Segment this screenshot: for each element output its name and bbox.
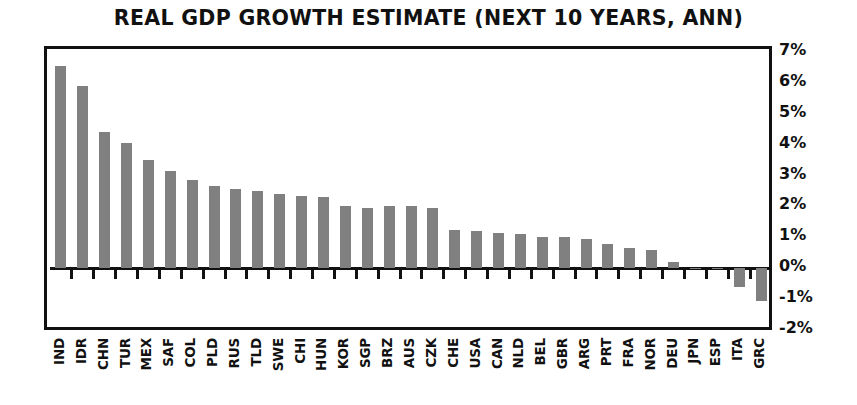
bar — [230, 189, 241, 268]
bar — [646, 250, 657, 269]
x-tick — [727, 270, 730, 279]
bar — [252, 191, 263, 268]
x-axis-label-saf: SAF — [160, 338, 176, 367]
bar — [559, 237, 570, 268]
x-tick — [552, 270, 555, 279]
bar — [143, 160, 154, 268]
y-axis-label-0: 0% — [779, 256, 806, 275]
bar — [668, 262, 679, 268]
x-tick — [289, 270, 292, 279]
y-axis-label-5: 5% — [779, 101, 806, 120]
x-tick — [683, 270, 686, 279]
x-axis-label-esp: ESP — [707, 338, 723, 366]
bar — [602, 244, 613, 269]
x-axis-label-sgp: SGP — [357, 338, 373, 368]
bar — [296, 196, 307, 269]
y-axis-label-3: 3% — [779, 163, 806, 182]
x-tick — [442, 270, 445, 279]
x-tick — [92, 270, 95, 279]
x-axis-label-tur: TUR — [117, 338, 133, 368]
plot-frame — [44, 46, 772, 330]
x-axis-label-arg: ARG — [576, 338, 592, 369]
x-tick — [70, 270, 73, 279]
x-axis-label-tld: TLD — [248, 338, 264, 366]
y-axis-label-7: 7% — [779, 40, 806, 59]
y-axis-label-neg2: -2% — [779, 318, 813, 337]
bar — [318, 197, 329, 268]
bar — [493, 233, 504, 269]
x-tick — [333, 270, 336, 279]
bar — [690, 268, 701, 269]
x-tick — [114, 270, 117, 279]
x-axis-label-ita: ITA — [729, 338, 745, 361]
x-tick — [355, 270, 358, 279]
x-axis-label-col: COL — [182, 338, 198, 367]
x-axis-label-idr: IDR — [73, 338, 89, 364]
plot-area — [50, 52, 772, 330]
x-axis-label-hun: HUN — [313, 338, 329, 371]
x-axis-label-prt: PRT — [598, 338, 614, 366]
x-tick — [617, 270, 620, 279]
x-tick — [705, 270, 708, 279]
x-tick — [158, 270, 161, 279]
y-axis-label-4: 4% — [779, 132, 806, 151]
bar — [406, 206, 417, 268]
bar — [187, 180, 198, 268]
x-tick — [136, 270, 139, 279]
bar — [165, 171, 176, 268]
gdp-growth-bar-chart: REAL GDP GROWTH ESTIMATE (NEXT 10 YEARS,… — [0, 0, 857, 405]
x-axis-label-nor: NOR — [642, 338, 658, 371]
x-axis-label-chi: CHI — [292, 338, 308, 364]
x-tick — [224, 270, 227, 279]
x-tick — [574, 270, 577, 279]
bar — [77, 86, 88, 268]
x-axis-label-ind: IND — [51, 338, 67, 365]
bar — [537, 237, 548, 268]
x-tick — [180, 270, 183, 279]
x-axis-label-bel: BEL — [532, 338, 548, 366]
x-tick — [508, 270, 511, 279]
x-tick — [530, 270, 533, 279]
y-axis-label-1: 1% — [779, 225, 806, 244]
x-tick — [377, 270, 380, 279]
x-axis-label-che: CHE — [445, 338, 461, 368]
x-tick — [267, 270, 270, 279]
x-axis-label-fra: FRA — [620, 338, 636, 367]
bar — [121, 143, 132, 268]
x-tick — [202, 270, 205, 279]
x-tick — [486, 270, 489, 279]
x-axis-label-gbr: GBR — [554, 338, 570, 369]
x-axis-label-can: CAN — [489, 338, 505, 369]
y-axis-label-2: 2% — [779, 194, 806, 213]
x-tick — [661, 270, 664, 279]
x-axis-label-czk: CZK — [423, 338, 439, 368]
x-axis-label-kor: KOR — [335, 338, 351, 369]
bar — [362, 208, 373, 268]
x-tick — [595, 270, 598, 279]
bar — [734, 268, 745, 287]
x-axis-label-chn: CHN — [95, 338, 111, 370]
bar — [384, 206, 395, 268]
bar — [515, 234, 526, 268]
chart-title: REAL GDP GROWTH ESTIMATE (NEXT 10 YEARS,… — [0, 6, 857, 30]
bar — [340, 206, 351, 268]
y-axis-label-neg1: -1% — [779, 287, 813, 306]
x-tick — [420, 270, 423, 279]
x-axis-label-usa: USA — [467, 338, 483, 369]
bar — [99, 132, 110, 268]
y-axis-label-6: 6% — [779, 70, 806, 89]
x-axis-label-jpn: JPN — [685, 338, 701, 364]
bar — [756, 268, 767, 300]
x-tick — [311, 270, 314, 279]
bar — [449, 230, 460, 269]
bar — [471, 231, 482, 268]
bar — [209, 186, 220, 268]
x-axis-label-pld: PLD — [204, 338, 220, 367]
x-tick — [399, 270, 402, 279]
bar — [581, 239, 592, 268]
x-tick — [464, 270, 467, 279]
bar — [274, 194, 285, 268]
x-axis-label-grc: GRC — [751, 338, 767, 369]
bar — [712, 268, 723, 269]
bar — [624, 248, 635, 268]
